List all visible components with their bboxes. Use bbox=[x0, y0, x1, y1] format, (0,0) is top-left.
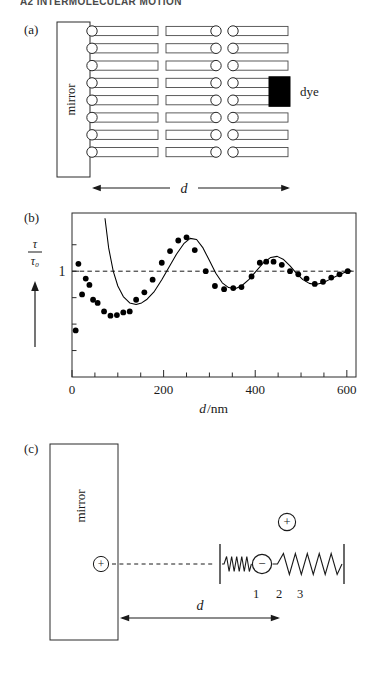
data-point bbox=[328, 275, 334, 281]
oscillator-mass: − bbox=[252, 554, 271, 573]
molecule-head bbox=[87, 60, 97, 70]
y-axis-title: ττ₀ bbox=[28, 237, 42, 268]
data-point bbox=[337, 271, 343, 277]
molecule-head bbox=[228, 26, 238, 36]
dye-label: dye bbox=[300, 84, 319, 99]
molecule-rod bbox=[92, 148, 158, 157]
x-axis-ticks bbox=[72, 370, 347, 377]
data-point bbox=[295, 271, 301, 277]
data-point bbox=[114, 312, 120, 318]
molecule-rod bbox=[233, 148, 288, 157]
molecule-rod bbox=[92, 96, 158, 105]
data-point bbox=[167, 248, 173, 254]
molecule-head bbox=[211, 43, 221, 53]
molecule-head bbox=[87, 112, 97, 122]
data-point bbox=[120, 310, 126, 316]
distance-label-c: d bbox=[197, 598, 205, 613]
molecule-row bbox=[87, 130, 288, 140]
data-point bbox=[304, 276, 310, 282]
molecule-rod bbox=[233, 113, 288, 122]
spring-right bbox=[273, 554, 342, 575]
data-point bbox=[192, 247, 198, 253]
x-axis-title-symbol: d bbox=[199, 401, 206, 416]
molecule-rod bbox=[233, 61, 288, 70]
data-point bbox=[101, 309, 107, 315]
data-point bbox=[87, 282, 93, 288]
molecule-rod bbox=[166, 113, 216, 122]
distance-arrow-c: d bbox=[120, 598, 280, 621]
data-point bbox=[159, 260, 165, 266]
data-point bbox=[312, 281, 318, 287]
image-charge-plus: + bbox=[98, 558, 105, 570]
molecule-head bbox=[228, 147, 238, 157]
dye-block bbox=[269, 77, 290, 107]
data-point bbox=[133, 297, 139, 303]
oscillator-mass-minus: − bbox=[258, 556, 265, 571]
data-point bbox=[73, 328, 79, 334]
data-points bbox=[73, 234, 351, 333]
x-tick-label: 400 bbox=[245, 382, 265, 397]
x-axis-tick-labels: 0200400600 bbox=[69, 382, 357, 397]
data-point bbox=[203, 268, 209, 274]
molecule-head bbox=[228, 60, 238, 70]
molecule-head bbox=[228, 130, 238, 140]
image-charge: + bbox=[93, 556, 108, 571]
mirror-block: mirror bbox=[57, 22, 90, 177]
data-point bbox=[127, 309, 133, 315]
molecule-head bbox=[228, 112, 238, 122]
data-point bbox=[184, 234, 190, 240]
distance-label-a: d bbox=[181, 181, 189, 196]
chart-content: 0200400600d/nm1ττ₀ bbox=[28, 213, 357, 416]
data-point bbox=[230, 285, 236, 291]
molecule-rod bbox=[166, 44, 216, 53]
mirror-label: mirror bbox=[64, 83, 78, 116]
spring-index-label: 3 bbox=[297, 587, 303, 601]
molecule-head bbox=[211, 147, 221, 157]
molecule-head bbox=[228, 78, 238, 88]
panel-c-svg: mirror+−+123d bbox=[0, 430, 377, 689]
molecule-head bbox=[211, 60, 221, 70]
y-axis-ticks bbox=[72, 245, 79, 351]
x-tick-label: 200 bbox=[154, 382, 174, 397]
data-point bbox=[212, 283, 218, 289]
y-tick-label: 1 bbox=[59, 264, 66, 279]
panel-b: 0200400600d/nm1ττ₀ bbox=[0, 195, 377, 430]
data-point bbox=[141, 289, 147, 295]
data-point bbox=[83, 276, 89, 282]
distance-arrow-a: d bbox=[92, 181, 290, 196]
spring-index-labels: 123 bbox=[253, 587, 303, 601]
molecule-rod bbox=[233, 44, 288, 53]
data-point bbox=[239, 284, 245, 290]
molecule-head bbox=[228, 95, 238, 105]
molecule-head bbox=[211, 26, 221, 36]
panel-c: mirror+−+123d bbox=[0, 430, 377, 689]
data-point bbox=[150, 277, 156, 283]
molecule-row bbox=[87, 78, 288, 88]
molecule-rod bbox=[92, 130, 158, 139]
data-point bbox=[108, 313, 114, 319]
positive-charge: + bbox=[278, 513, 295, 530]
molecule-head bbox=[87, 26, 97, 36]
molecule-head bbox=[87, 147, 97, 157]
data-point bbox=[271, 259, 277, 265]
molecule-rod bbox=[92, 61, 158, 70]
molecule-rod bbox=[166, 26, 216, 35]
molecule-row bbox=[87, 112, 288, 122]
molecule-head bbox=[211, 95, 221, 105]
molecule-rod bbox=[166, 130, 216, 139]
data-point bbox=[320, 279, 326, 285]
molecule-row bbox=[87, 26, 288, 36]
molecule-row bbox=[87, 60, 288, 70]
panel-a-content: mirrordyed bbox=[57, 22, 319, 196]
molecule-head bbox=[87, 95, 97, 105]
data-point bbox=[249, 274, 255, 280]
panel-c-content: mirror+−+123d bbox=[50, 444, 344, 640]
molecule-rod bbox=[233, 26, 288, 35]
mirror-block-c: mirror bbox=[50, 444, 118, 640]
y-axis-title-denominator: τ₀ bbox=[31, 254, 39, 268]
x-axis-title-unit: /nm bbox=[207, 401, 229, 416]
plot-frame bbox=[72, 213, 356, 377]
spring-index-label: 1 bbox=[253, 587, 259, 601]
data-point bbox=[279, 262, 285, 268]
data-point bbox=[76, 261, 82, 267]
